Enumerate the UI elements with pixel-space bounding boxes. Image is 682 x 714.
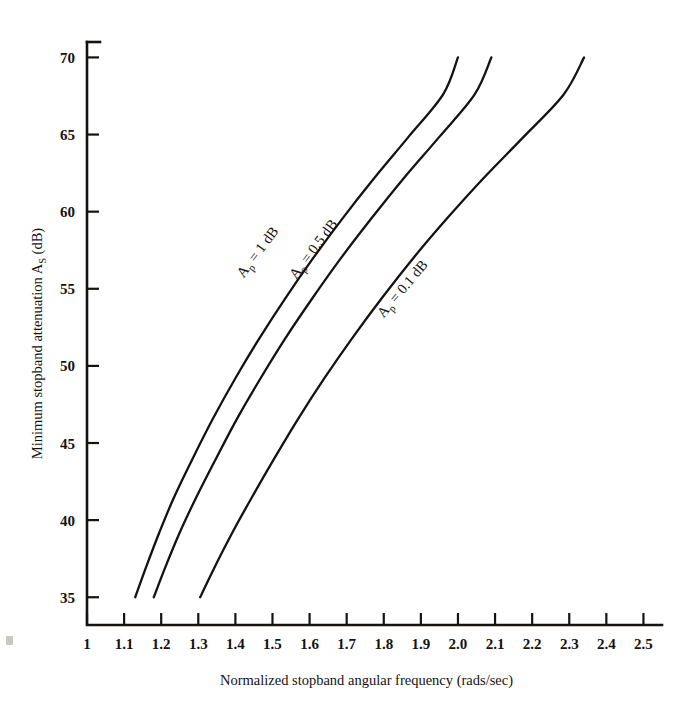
- y-tick-label: 45: [60, 436, 75, 452]
- x-tick-label: 1: [83, 636, 91, 652]
- x-axis-title: Normalized stopband angular frequency (r…: [220, 672, 513, 689]
- x-tick-label: 2.1: [486, 636, 505, 652]
- x-tick-label: 2.2: [523, 636, 542, 652]
- x-tick-label: 1.4: [226, 636, 245, 652]
- y-tick-label: 50: [60, 358, 75, 374]
- x-tick-label: 1.5: [263, 636, 282, 652]
- curve-label-1: Ap = 1 dB: [233, 223, 283, 281]
- y-axis-title: Minimum stopband attenuation AS (dB): [29, 228, 48, 460]
- curve-label-3: Ap = 0.1 dB: [374, 257, 433, 322]
- x-tick-label: 2.4: [597, 636, 616, 652]
- curve-label-2: Ap = 0.5 dB: [286, 216, 343, 283]
- curve-1: [135, 57, 458, 597]
- y-tick-label: 70: [60, 50, 75, 66]
- y-tick-label: 65: [60, 127, 75, 143]
- x-tick-label: 2.5: [634, 636, 653, 652]
- x-tick-label: 2.3: [560, 636, 579, 652]
- x-tick-label: 1.6: [300, 636, 319, 652]
- x-tick-label: 1.2: [152, 636, 171, 652]
- curve-label-group-1: Ap = 1 dB: [233, 223, 283, 281]
- chart-canvas: 354045505560657011.11.21.31.41.51.61.71.…: [0, 0, 682, 714]
- y-tick-label: 40: [60, 513, 75, 529]
- x-tick-label: 1.1: [115, 636, 134, 652]
- y-axis-title-group: Minimum stopband attenuation AS (dB): [29, 228, 48, 460]
- x-tick-label: 2.0: [449, 636, 468, 652]
- x-tick-label: 1.9: [411, 636, 430, 652]
- x-tick-label: 1.7: [337, 636, 356, 652]
- curve-2: [154, 57, 492, 597]
- curve-label-group-3: Ap = 0.1 dB: [374, 257, 433, 322]
- curve-label-group-2: Ap = 0.5 dB: [286, 216, 343, 283]
- y-tick-label: 35: [60, 590, 75, 606]
- x-tick-label: 1.8: [374, 636, 393, 652]
- y-tick-label: 60: [60, 204, 75, 220]
- axis-spines: [87, 42, 662, 625]
- y-tick-label: 55: [60, 281, 75, 297]
- x-tick-label: 1.3: [189, 636, 208, 652]
- filter-design-nomograph: 354045505560657011.11.21.31.41.51.61.71.…: [0, 0, 682, 714]
- curve-3: [200, 57, 584, 597]
